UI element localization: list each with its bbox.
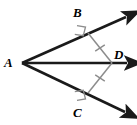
geometry-canvas <box>0 0 137 125</box>
geometry-figure: A B C D <box>0 0 137 125</box>
vertex-label-D: D <box>114 48 123 61</box>
tick-mark-BD <box>95 45 105 51</box>
ray-AB <box>22 17 126 63</box>
tick-mark-CD <box>95 75 105 81</box>
right-angle-mark-B <box>75 26 86 36</box>
vertex-label-C: C <box>73 106 82 119</box>
vertex-label-B: B <box>73 6 82 19</box>
vertex-label-A: A <box>4 56 13 69</box>
